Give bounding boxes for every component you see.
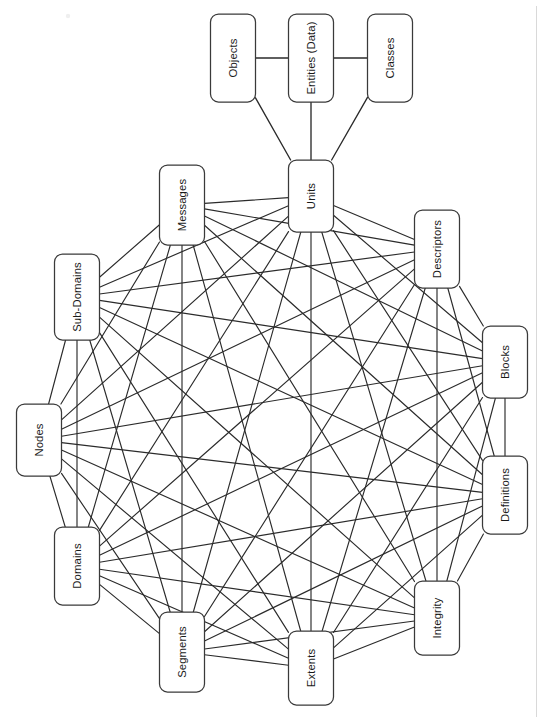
node-domains[interactable]: Domains <box>55 527 100 605</box>
node-label-classes: Classes <box>384 37 396 78</box>
edge-definitions-integrity <box>457 534 483 581</box>
node-label-integrity: Integrity <box>431 597 443 638</box>
edge-units-messages <box>205 198 289 204</box>
node-objects[interactable]: Objects <box>211 14 256 102</box>
edge-definitions-subdomains <box>100 307 483 484</box>
node-label-blocks: Blocks <box>499 345 511 379</box>
edge-domains-nodes <box>50 476 65 527</box>
edge-definitions-nodes <box>62 443 483 493</box>
edge-integrity-messages <box>205 241 415 581</box>
nodes-layer: ObjectsEntities (Data)ClassesUnitsDescri… <box>17 14 528 705</box>
edge-units-segments <box>193 232 301 612</box>
network-diagram: ObjectsEntities (Data)ClassesUnitsDescri… <box>0 0 545 723</box>
edges-layer <box>49 58 505 665</box>
edge-segments-domains <box>100 584 160 633</box>
edge-blocks-subdomains <box>100 300 483 358</box>
node-label-definitions: Definitions <box>499 468 511 522</box>
edge-units-descriptors <box>334 205 415 239</box>
diagram-canvas: ObjectsEntities (Data)ClassesUnitsDescri… <box>0 0 545 723</box>
edge-descriptors-segments <box>205 285 415 617</box>
edge-integrity-nodes <box>62 450 415 608</box>
node-label-domains: Domains <box>71 543 83 589</box>
node-units[interactable]: Units <box>289 160 334 232</box>
edge-extents-segments <box>205 655 289 665</box>
scan-speck <box>66 14 70 18</box>
node-blocks[interactable]: Blocks <box>483 326 528 398</box>
node-nodes[interactable]: Nodes <box>17 404 62 476</box>
node-integrity[interactable]: Integrity <box>415 581 460 655</box>
node-descriptors[interactable]: Descriptors <box>415 210 460 288</box>
node-label-messages: Messages <box>176 179 188 232</box>
node-subdomains[interactable]: Sub-Domains <box>55 254 100 340</box>
node-label-segments: Segments <box>176 626 188 678</box>
node-segments[interactable]: Segments <box>160 612 205 692</box>
edge-subdomains-messages <box>100 225 160 278</box>
edge-nodes-subdomains <box>49 340 66 404</box>
edge-blocks-domains <box>100 373 483 556</box>
node-label-subdomains: Sub-Domains <box>71 262 83 332</box>
node-label-units: Units <box>305 183 317 209</box>
edge-objects-units <box>256 98 291 160</box>
edge-descriptors-nodes <box>62 260 415 429</box>
node-label-nodes: Nodes <box>33 423 45 456</box>
node-entities[interactable]: Entities (Data) <box>289 14 334 102</box>
edge-integrity-domains <box>100 569 415 615</box>
node-label-descriptors: Descriptors <box>431 220 443 278</box>
edge-extents-messages <box>193 245 301 631</box>
edge-classes-units <box>332 97 368 160</box>
node-label-objects: Objects <box>227 38 239 77</box>
edge-integrity-extents <box>334 627 415 659</box>
edge-units-blocks <box>334 215 483 343</box>
node-messages[interactable]: Messages <box>160 165 205 245</box>
edge-descriptors-blocks <box>460 286 484 326</box>
node-definitions[interactable]: Definitions <box>483 456 528 534</box>
node-classes[interactable]: Classes <box>368 14 413 102</box>
node-label-entities: Entities (Data) <box>305 21 317 94</box>
node-extents[interactable]: Extents <box>289 631 334 705</box>
node-label-extents: Extents <box>305 649 317 688</box>
